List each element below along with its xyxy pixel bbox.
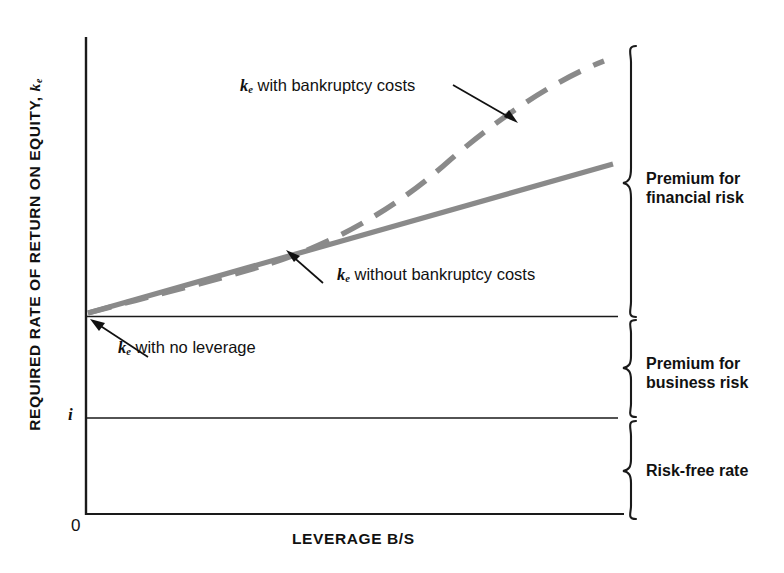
risk-free-tick-label: i	[68, 405, 73, 425]
y-axis-title: REQUIRED RATE OF RETURN ON EQUITY, ke	[26, 19, 45, 489]
origin-label: 0	[71, 516, 80, 536]
figure-container: REQUIRED RATE OF RETURN ON EQUITY, ke LE…	[0, 0, 784, 573]
annotation-bankruptcy-rest: with bankruptcy costs	[253, 76, 415, 94]
annotation-no-bankruptcy-rest: without bankruptcy costs	[350, 265, 535, 283]
brace-financial-risk	[623, 46, 636, 317]
brace-business-line2: business risk	[646, 374, 748, 391]
x-axis-title: LEVERAGE B/S	[292, 530, 415, 548]
y-axis-title-wrap: REQUIRED RATE OF RETURN ON EQUITY, ke	[0, 0, 60, 520]
brace-business-line1: Premium for	[646, 355, 740, 372]
brace-risk-free-rate	[623, 421, 636, 519]
annotation-ke-no-leverage: ke with no leverage	[118, 338, 256, 359]
brace-business-risk	[623, 320, 636, 417]
annotation-bankruptcy-k: k	[240, 76, 248, 95]
y-axis-title-text: REQUIRED RATE OF RETURN ON EQUITY,	[26, 91, 43, 430]
annotation-no-leverage-k: k	[118, 338, 126, 357]
arrow-no-bankruptcy	[286, 250, 323, 283]
brace-label-financial-risk: Premium forfinancial risk	[646, 170, 744, 208]
annotation-no-leverage-rest: with no leverage	[131, 338, 256, 356]
brace-label-business-risk: Premium forbusiness risk	[646, 355, 748, 393]
brace-financial-line1: Premium for	[646, 170, 740, 187]
brace-label-risk-free-rate: Risk-free rate	[646, 462, 748, 481]
annotation-no-bankruptcy-k: k	[337, 265, 345, 284]
annotation-ke-with-bankruptcy: ke with bankruptcy costs	[240, 76, 415, 97]
y-axis-title-subscript: e	[33, 78, 44, 83]
arrow-bankruptcy	[453, 85, 518, 123]
annotation-ke-without-bankruptcy: ke without bankruptcy costs	[337, 265, 535, 286]
brace-financial-line2: financial risk	[646, 189, 744, 206]
y-axis-title-k: k	[26, 83, 43, 91]
